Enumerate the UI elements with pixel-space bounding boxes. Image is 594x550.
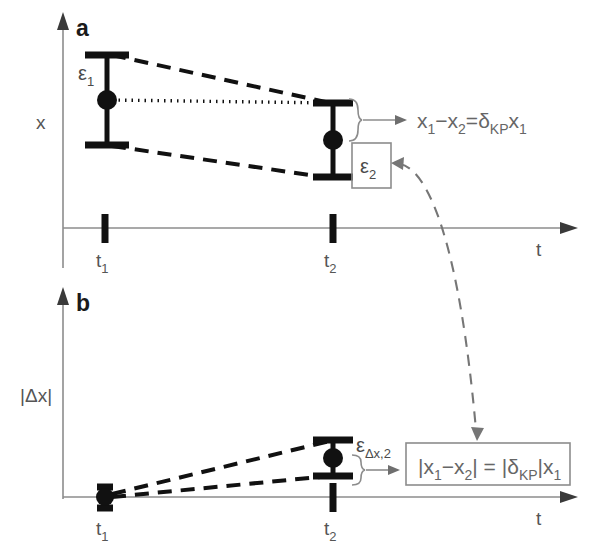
panel-a-errorbar-t1 — [85, 55, 129, 145]
panel-a-epsilon2-callout: ε2 — [352, 143, 391, 188]
panel-b-errorbar-t1 — [96, 487, 114, 508]
panel-link-arrowhead-up — [391, 157, 404, 170]
panel-a-tick-t1-label: t1 — [96, 250, 109, 276]
panel-b-equation: |x1−x2| = |δKP|x1 — [418, 455, 562, 483]
panel-b-tick-t2: t2 — [324, 483, 337, 544]
panel-b-datapoint-t2 — [323, 448, 343, 468]
figure-canvas: a x t ε1 — [0, 0, 594, 550]
panel-a-tick-t1: t1 — [96, 214, 109, 276]
panel-b-x-axis-label: t — [536, 508, 542, 529]
panel-b-datapoint-t1 — [96, 488, 114, 506]
panel-b-tick-t1-label: t1 — [96, 518, 109, 544]
panel-b-y-axis-label: |Δx| — [20, 385, 52, 406]
panel-b-x-axis-arrowhead — [560, 491, 578, 503]
panel-b-tick-t2-label: t2 — [324, 518, 337, 544]
panel-a-x-axis-label: t — [536, 239, 542, 260]
panel-a-cone-upper — [112, 55, 330, 103]
panel-a-tick-t2: t2 — [324, 214, 337, 276]
panel-link-arrow — [391, 157, 484, 441]
panel-a-letter: a — [76, 15, 89, 41]
panel-a-y-axis — [57, 12, 69, 268]
panel-b-epsilon-label: εΔx,2 — [356, 434, 391, 461]
panel-a-epsilon2-label: ε2 — [360, 155, 376, 182]
panel-a-errorbar-t2 — [313, 103, 353, 177]
panel-a-y-axis-label: x — [36, 112, 46, 133]
panel-a-x-axis-arrowhead — [560, 222, 578, 234]
panel-a-datapoint-t1 — [97, 90, 117, 110]
panel-a-y-axis-arrowhead — [57, 12, 69, 30]
panel-a-equation: x1−x2=δKPx1 — [417, 109, 527, 137]
panel-a-x-axis — [63, 222, 578, 234]
panel-b-tick-t1: t1 — [96, 518, 109, 544]
panel-b-y-axis — [57, 287, 69, 499]
panel-b-callout-arrowhead — [388, 465, 400, 475]
panel-a-center-dotted-line — [112, 100, 332, 103]
panel-b: b |Δx| t εΔx, — [20, 287, 578, 544]
panel-a-callout-arrowhead — [395, 115, 407, 125]
panel-a-equation-callout: x1−x2=δKPx1 — [349, 99, 527, 141]
panel-b-letter: b — [76, 290, 90, 316]
panel-a-tick-t2-label: t2 — [324, 250, 337, 276]
panel-a: a x t ε1 — [36, 12, 578, 276]
panel-b-y-axis-arrowhead — [57, 287, 69, 305]
panel-b-cone-upper — [112, 441, 330, 494]
panel-a-epsilon1-label: ε1 — [78, 62, 94, 89]
panel-link-arrowhead-down — [471, 427, 484, 441]
panel-a-datapoint-t2 — [323, 130, 343, 150]
panel-a-cone-lower — [112, 146, 330, 178]
